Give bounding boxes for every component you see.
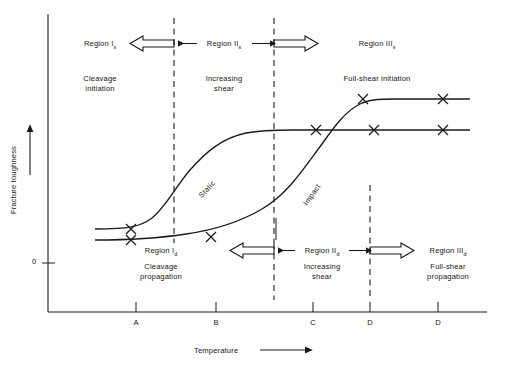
bottom-region-3-desc: Full-shear propagation — [427, 262, 469, 282]
x-axis-ticks — [136, 302, 438, 312]
figure-container: Region Is Cleavage initiation Region IIs… — [0, 0, 508, 372]
top-arrow-region-3 — [274, 36, 318, 51]
x-tick-label-d1: D — [367, 318, 373, 327]
y-axis-title: Fracture toughness — [9, 146, 18, 214]
bottom-arrow-region-1 — [230, 243, 274, 258]
bottom-region-2-label: Region IId — [305, 246, 340, 258]
x-axis-title: Temperature — [194, 346, 238, 355]
y-axis-title-wrap: Fracture toughness — [6, 110, 20, 250]
bottom-region-1-desc: Cleavage propagation — [140, 262, 182, 282]
transition-temperature-diagram — [0, 0, 508, 372]
bottom-region-3-label: Region IIId — [429, 246, 466, 258]
bottom-arrow-region-3 — [370, 243, 414, 258]
top-arrow-region-1 — [130, 36, 174, 51]
y-origin-label: 0 — [32, 257, 36, 266]
top-region-1-label: Region Is — [84, 39, 116, 51]
bottom-region-2-desc: Increasing shear — [304, 262, 341, 282]
top-region-2-label: Region IIs — [207, 39, 241, 51]
bottom-region-1-label: Region Id — [145, 246, 177, 258]
region-dividers-top — [174, 18, 274, 243]
marker-x — [206, 232, 216, 242]
top-region-3-label: Region IIIs — [359, 39, 396, 51]
x-tick-label-d2: D — [435, 318, 441, 327]
top-region-1-desc: Cleavage initiation — [83, 74, 116, 94]
region-dividers-bottom — [274, 185, 370, 300]
x-tick-label-a: A — [133, 318, 138, 327]
marker-x — [126, 224, 136, 234]
axis-lines — [48, 14, 487, 312]
top-region-2-desc: Increasing shear — [206, 74, 243, 94]
top-region-3-desc: Full-shear initiation — [344, 74, 411, 84]
x-tick-label-c: C — [310, 318, 316, 327]
x-tick-label-b: B — [213, 318, 218, 327]
static-curve — [95, 130, 470, 229]
